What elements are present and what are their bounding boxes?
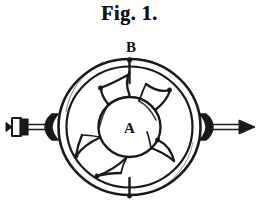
vane-left-node	[74, 154, 78, 158]
vane-upper-right-tip	[146, 84, 170, 91]
vane-top-node	[98, 86, 102, 90]
inlet-collar	[45, 114, 58, 140]
outlet-collar	[200, 114, 213, 140]
outlet-flow-arrow	[239, 120, 255, 134]
casing-top-marker	[127, 58, 132, 63]
hub-label: A	[124, 120, 135, 136]
vane-top-tip	[101, 88, 108, 104]
inlet-pipe-left	[6, 114, 58, 140]
vane-upper-right-blade	[155, 90, 170, 110]
casing-bottom-marker	[127, 194, 131, 198]
vane-lower-right-inner-edge	[147, 132, 151, 148]
vane-lower-right-node	[155, 138, 159, 142]
vane-top-inner-edge	[108, 96, 130, 104]
outlet-arrow-right	[200, 114, 255, 140]
casing-top-label: B	[126, 39, 136, 55]
figure-plate: Fig. 1. A	[0, 0, 259, 216]
vane-bottom-node	[95, 174, 99, 178]
vane-left-inner-edge	[82, 135, 100, 137]
vane-upper-right-node	[167, 88, 171, 92]
vane-top-blade	[100, 74, 130, 88]
turbine-diagram: A	[0, 0, 259, 216]
